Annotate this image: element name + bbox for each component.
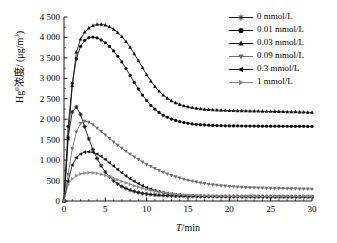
legend-item-1[interactable]: 0 mmol/L (228, 10, 336, 23)
x-tick-label: 10 (142, 204, 152, 214)
x-tick-label: 30 (308, 204, 318, 214)
legend-label-4: 0.09 mmol/L (257, 49, 304, 62)
y-tick-label: 1 500 (40, 135, 61, 145)
series-4 (62, 120, 314, 203)
y-tick-label: 3 000 (40, 73, 61, 83)
y-axis-title: Hg0浓度/ (μg/m3) (11, 0, 25, 137)
chart-legend: 0 mmol/L0.01 mmol/L0.03 mmol/L0.09 mmol/… (228, 10, 336, 88)
y-tick-label: 2 000 (40, 114, 61, 124)
legend-item-5[interactable]: 0.3 mmol/L (228, 62, 336, 75)
y-tick-label: 0 (56, 196, 61, 206)
legend-item-3[interactable]: 0.03 mmol/L (228, 36, 336, 49)
legend-marker-triangle-left-icon (228, 62, 254, 75)
legend-item-4[interactable]: 0.09 mmol/L (228, 49, 336, 62)
x-tick-labels: 051015202530 (62, 204, 317, 214)
legend-label-6: 1 mmol/L (257, 75, 293, 88)
y-axis-title-text: Hg0浓度/ (μg/m3) (14, 31, 25, 103)
x-axis-title: T/min (64, 222, 312, 233)
legend-item-2[interactable]: 0.01 mmol/L (228, 23, 336, 36)
x-tick-label: 20 (225, 204, 235, 214)
y-tick-labels: 05001 0001 5002 0002 5003 0003 5004 0004… (40, 12, 61, 206)
y-tick-label: 4 000 (40, 32, 61, 42)
legend-label-3: 0.03 mmol/L (257, 36, 304, 49)
y-tick-label: 1 000 (40, 155, 61, 165)
legend-label-2: 0.01 mmol/L (257, 23, 304, 36)
legend-label-5: 0.3 mmol/L (257, 62, 300, 75)
y-tick-label: 4 500 (40, 12, 61, 22)
x-tick-label: 15 (184, 204, 194, 214)
x-tick-label: 5 (103, 204, 108, 214)
legend-marker-triangle-right-icon (228, 75, 254, 88)
chart-figure: 051015202530 05001 0001 5002 0002 5003 0… (0, 0, 337, 243)
y-tick-label: 2 500 (40, 94, 61, 104)
legend-marker-triangle-down-icon (228, 49, 254, 62)
legend-item-6[interactable]: 1 mmol/L (228, 75, 336, 88)
legend-marker-star-icon (228, 10, 254, 23)
legend-label-1: 0 mmol/L (257, 10, 293, 23)
legend-marker-triangle-up-icon (228, 36, 254, 49)
x-axis-title-unit: /min (182, 222, 200, 233)
x-tick-label: 25 (266, 204, 276, 214)
x-tick-label: 0 (62, 204, 67, 214)
legend-marker-circle-icon (228, 23, 254, 36)
y-tick-label: 3 500 (40, 53, 61, 63)
y-tick-label: 500 (47, 176, 61, 186)
